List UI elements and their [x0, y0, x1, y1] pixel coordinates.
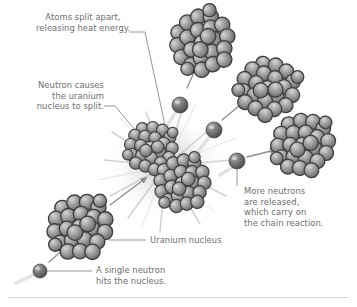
diagram-artwork [0, 0, 357, 307]
label-uranium-nucleus: Uranium nucleus [150, 235, 260, 246]
bottom-divider [8, 297, 349, 298]
neutron-released-middle [206, 122, 222, 138]
label-atoms-split-apart: Atoms split apart, releasing heat energy… [36, 12, 130, 33]
label-single-neutron: A single neutron hits the nucleus. [96, 265, 206, 286]
nucleus-product-top [159, 0, 246, 86]
label-neutron-causes-split: Neutron causes the uranium nucleus to sp… [14, 80, 104, 112]
neutron-incoming [33, 264, 47, 278]
label-more-neutrons: More neutrons are released, which carry … [244, 186, 350, 228]
nucleus-uranium-incoming [47, 194, 113, 259]
fission-diagram: Atoms split apart, releasing heat energy… [0, 0, 357, 307]
nucleus-product-bottom-right [267, 109, 339, 180]
neutron-released-bottom [229, 153, 245, 169]
neutron-released-top [172, 97, 188, 113]
